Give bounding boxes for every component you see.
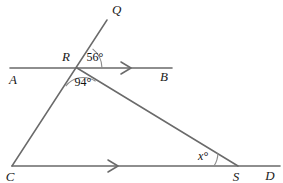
point-label-Q: Q	[112, 2, 122, 17]
line-RS	[77, 68, 238, 166]
line-QC	[12, 20, 107, 166]
point-label-C: C	[6, 169, 15, 183]
point-label-R: R	[61, 49, 70, 64]
angle-label-x: x°	[197, 149, 208, 163]
point-label-D: D	[264, 168, 275, 183]
point-label-A: A	[8, 72, 17, 87]
point-label-B: B	[160, 69, 168, 84]
geometry-diagram: Q R A B C S D 56° 94° x°	[0, 0, 283, 183]
point-label-S: S	[233, 169, 240, 183]
angle-RSC-arc	[214, 153, 218, 166]
angle-label-56: 56°	[87, 50, 104, 64]
angle-label-94: 94°	[75, 75, 92, 89]
geometry-canvas: Q R A B C S D 56° 94° x°	[0, 0, 283, 183]
